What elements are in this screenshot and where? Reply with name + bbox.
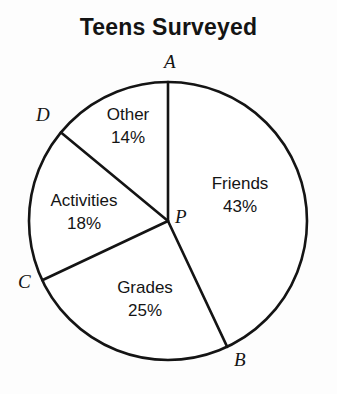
point-label-a: A: [164, 52, 176, 71]
point-label-c: C: [18, 272, 31, 291]
slice-name-friends: Friends: [190, 172, 290, 195]
slice-value-other: 14%: [78, 126, 178, 149]
slice-label-friends: Friends 43%: [190, 172, 290, 218]
slice-value-grades: 25%: [95, 299, 195, 322]
point-label-d: D: [36, 105, 50, 124]
slice-label-other: Other 14%: [78, 103, 178, 149]
slice-label-activities: Activities 18%: [24, 189, 144, 235]
point-label-b: B: [234, 350, 246, 369]
pie-chart-figure: Teens Surveyed Friends 43% Grades 25% Ac…: [0, 0, 337, 394]
point-label-p: P: [175, 207, 187, 226]
slice-name-grades: Grades: [95, 276, 195, 299]
slice-value-friends: 43%: [190, 195, 290, 218]
slice-name-activities: Activities: [24, 189, 144, 212]
slice-name-other: Other: [78, 103, 178, 126]
slice-label-grades: Grades 25%: [95, 276, 195, 322]
slice-value-activities: 18%: [24, 212, 144, 235]
